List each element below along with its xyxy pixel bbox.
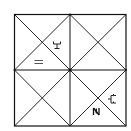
center-vertex-dot xyxy=(68,68,71,71)
n-glyph-icon xyxy=(94,108,100,115)
left-vertex-dot xyxy=(14,69,16,71)
right-vertex-dot xyxy=(125,69,127,71)
branch-glyph-icon xyxy=(108,94,116,103)
top-vertex-dot xyxy=(69,14,71,16)
puzzle-board xyxy=(0,0,131,131)
trident-glyph-icon xyxy=(54,42,61,49)
equals-glyph-icon xyxy=(35,61,44,64)
